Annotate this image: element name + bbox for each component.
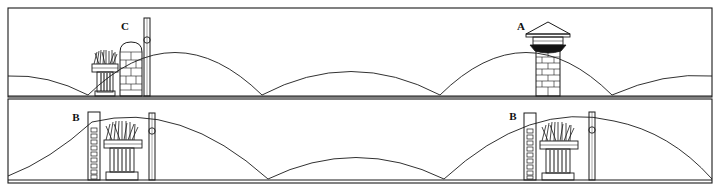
technical-drawing: C A — [0, 0, 720, 189]
label-b-right: B — [509, 110, 517, 122]
label-c: C — [121, 20, 129, 32]
label-b-left: B — [72, 111, 80, 123]
label-a: A — [517, 20, 525, 32]
figure-canvas: C A — [0, 0, 720, 189]
